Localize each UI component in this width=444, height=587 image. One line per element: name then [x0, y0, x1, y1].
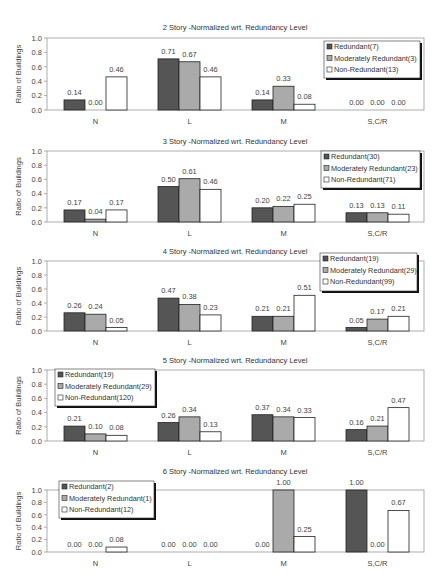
x-category-label: N	[93, 559, 98, 568]
bar	[106, 547, 127, 552]
bar-value-label: 0.25	[297, 525, 312, 534]
bar-value-label: 0.00	[182, 540, 197, 549]
x-category-label: N	[93, 117, 98, 126]
bar	[85, 219, 106, 222]
y-tick-label: 0.0	[32, 548, 42, 557]
bar-value-label: 0.04	[88, 207, 103, 216]
legend-swatch	[323, 279, 328, 284]
y-tick-label: 1.0	[32, 34, 42, 43]
bar-value-label: 0.34	[276, 405, 291, 414]
bar-value-label: 0.21	[255, 304, 270, 313]
bar	[200, 189, 221, 222]
legend-label: Moderately Redundant(29)	[330, 266, 417, 275]
bar-value-label: 0.21	[276, 304, 291, 313]
legend-label: Redundant(19)	[330, 254, 379, 263]
bar	[252, 415, 273, 441]
bar-value-label: 0.37	[255, 403, 270, 412]
bar-value-label: 0.33	[276, 74, 291, 83]
bar	[388, 408, 409, 441]
bar	[273, 490, 294, 552]
bar-value-label: 0.21	[370, 414, 385, 423]
bar	[294, 104, 315, 110]
bar-value-label: 0.00	[161, 540, 176, 549]
legend-label: Non-Redundant(71)	[331, 175, 396, 184]
legend-label: Moderately Redundant(29)	[65, 382, 152, 391]
legend-label: Moderately Redundant(3)	[334, 54, 417, 63]
bar-value-label: 0.47	[391, 396, 406, 405]
legend-label: Redundant(7)	[334, 42, 379, 51]
bar	[294, 418, 315, 441]
bar	[346, 490, 367, 552]
legend-swatch	[62, 507, 67, 512]
y-tick-label: 0.4	[32, 408, 42, 417]
bar	[106, 210, 127, 222]
bar	[85, 434, 106, 441]
y-tick-label: 1.0	[32, 257, 42, 266]
bar	[106, 435, 127, 441]
bar-value-label: 0.17	[109, 198, 124, 207]
x-category-label: L	[187, 229, 191, 238]
bar	[158, 423, 179, 441]
bar-value-label: 0.10	[88, 422, 103, 431]
bar-value-label: 0.51	[297, 283, 312, 292]
bar	[179, 417, 200, 441]
y-axis-label: Ratio of Buildings	[14, 157, 23, 216]
x-category-label: M	[280, 448, 286, 457]
x-category-label: L	[187, 559, 191, 568]
x-category-label: L	[187, 338, 191, 347]
bar	[252, 208, 273, 222]
chart-title: 3 Story -Normalized wrt. Redundancy Leve…	[163, 137, 308, 146]
y-tick-label: 0.6	[32, 394, 42, 403]
legend-label: Non-Redundant(12)	[69, 505, 134, 514]
x-category-label: M	[280, 338, 286, 347]
y-tick-label: 0.6	[32, 511, 42, 520]
legend: Redundant(30)Moderately Redundant(23)Non…	[321, 151, 422, 190]
bar-value-label: 0.67	[391, 498, 406, 507]
y-tick-label: 0.4	[32, 299, 42, 308]
bar-value-label: 0.50	[161, 175, 176, 184]
legend-swatch	[327, 56, 332, 61]
legend-swatch	[323, 256, 328, 261]
bar-value-label: 0.00	[255, 540, 270, 549]
bar-value-label: 0.14	[67, 88, 82, 97]
bar-value-label: 0.22	[276, 194, 291, 203]
bar	[179, 62, 200, 110]
y-tick-label: 1.0	[32, 147, 42, 156]
bar	[273, 417, 294, 441]
bar-value-label: 0.21	[391, 304, 406, 313]
x-category-label: N	[93, 338, 98, 347]
figure-stack: 2 Story -Normalized wrt. Redundancy Leve…	[0, 0, 444, 587]
bar	[367, 213, 388, 222]
y-tick-label: 0.6	[32, 63, 42, 72]
bar	[158, 59, 179, 110]
y-tick-label: 0.8	[32, 498, 42, 507]
bar	[179, 304, 200, 331]
bar-value-label: 0.34	[182, 405, 197, 414]
legend-swatch	[62, 484, 67, 489]
y-axis-label: Ratio of Buildings	[14, 267, 23, 326]
x-category-label: S,C/R	[367, 559, 388, 568]
bar-value-label: 0.17	[67, 198, 82, 207]
chart-title: 4 Story -Normalized wrt. Redundancy Leve…	[163, 247, 308, 256]
bar-value-label: 0.26	[67, 301, 82, 310]
bar-value-label: 0.05	[349, 316, 364, 325]
bar	[200, 432, 221, 441]
bar	[367, 426, 388, 441]
bar	[179, 179, 200, 222]
bar-value-label: 0.00	[88, 540, 103, 549]
bar-value-label: 0.26	[161, 411, 176, 420]
legend-swatch	[62, 496, 67, 501]
bar-value-label: 0.00	[88, 98, 103, 107]
y-axis-label: Ratio of Buildings	[14, 45, 23, 104]
y-tick-label: 0.4	[32, 189, 42, 198]
y-tick-label: 0.2	[32, 535, 42, 544]
y-tick-label: 0.2	[32, 313, 42, 322]
bar	[252, 100, 273, 110]
x-category-label: M	[280, 117, 286, 126]
x-category-label: M	[280, 229, 286, 238]
bar-value-label: 0.13	[203, 420, 218, 429]
bar-value-label: 0.00	[391, 98, 406, 107]
bar	[294, 537, 315, 553]
bar	[106, 328, 127, 332]
bar-value-label: 0.00	[67, 540, 82, 549]
